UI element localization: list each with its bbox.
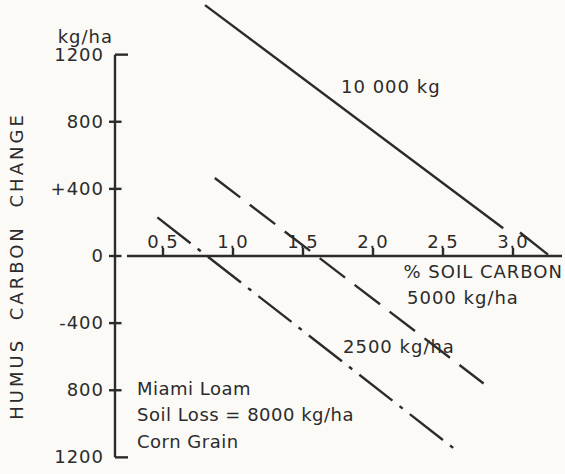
series-line-solid — [205, 5, 503, 228]
x-tick-label: 2.5 — [421, 231, 465, 252]
x-tick-label: 0.5 — [141, 231, 185, 252]
y-tick-label: 800 — [24, 379, 104, 400]
y-tick-label: 1200 — [24, 446, 104, 467]
y-tick-label: 1200 — [24, 44, 104, 65]
x-tick-label: 1.5 — [281, 231, 325, 252]
series-label-10000kg: 10 000 kg — [341, 76, 441, 97]
y-tick-label: +400 — [24, 178, 104, 199]
y-tick-label: 0 — [24, 245, 104, 266]
x-tick-label: 1.0 — [211, 231, 255, 252]
annotation-soil-loss: Soil Loss = 8000 kg/ha — [137, 404, 354, 425]
annotation-soil-type: Miami Loam — [137, 378, 251, 399]
x-axis-title: % SOIL CARBON — [363, 261, 563, 282]
y-tick-label: 800 — [24, 111, 104, 132]
scanned-line-chart: kg/ha HUMUS CARBON CHANGE 10 000 kg % SO… — [0, 0, 565, 474]
series-label-2500kgha: 2500 kg/ha — [343, 336, 455, 357]
series-label-5000kgha: 5000 kg/ha — [407, 287, 519, 308]
x-tick-label: 2.0 — [351, 231, 395, 252]
x-tick-label: 3.0 — [491, 231, 535, 252]
annotation-crop: Corn Grain — [137, 431, 239, 452]
y-tick-label: -400 — [24, 312, 104, 333]
